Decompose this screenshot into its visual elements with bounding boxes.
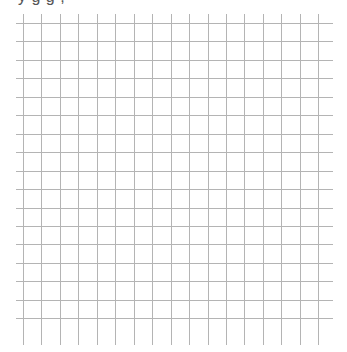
- grid-line-horizontal: [16, 281, 333, 282]
- grid-line-horizontal: [16, 263, 333, 264]
- grid-line-horizontal: [16, 300, 333, 301]
- grid-line-horizontal: [16, 208, 333, 209]
- grid-line-horizontal: [16, 23, 333, 24]
- grid-line-vertical: [41, 14, 42, 345]
- grid-line-horizontal: [16, 152, 333, 153]
- grid-line-horizontal: [16, 318, 333, 319]
- grid-line-vertical: [97, 14, 98, 345]
- grid-line-horizontal: [16, 115, 333, 116]
- grid-line-horizontal: [16, 226, 333, 227]
- grid-line-vertical: [60, 14, 61, 345]
- grid-line-vertical: [78, 14, 79, 345]
- grid-line-vertical: [171, 14, 172, 345]
- grid-line-vertical: [281, 14, 282, 345]
- grid-line-vertical: [152, 14, 153, 345]
- grid-line-horizontal: [16, 134, 333, 135]
- grid-line-horizontal: [16, 244, 333, 245]
- grid-line-vertical: [208, 14, 209, 345]
- grid-line-horizontal: [16, 189, 333, 190]
- grid-line-horizontal: [16, 97, 333, 98]
- grid-line-vertical: [263, 14, 264, 345]
- grid-line-vertical: [115, 14, 116, 345]
- grid-line-vertical: [134, 14, 135, 345]
- grid-line-vertical: [244, 14, 245, 345]
- grid-line-horizontal: [16, 78, 333, 79]
- grid-line-vertical: [23, 14, 24, 345]
- grid-line-horizontal: [16, 171, 333, 172]
- grid-line-horizontal: [16, 41, 333, 42]
- grid-line-vertical: [300, 14, 301, 345]
- grid-line-vertical: [226, 14, 227, 345]
- grid-line-vertical: [318, 14, 319, 345]
- grid-line-vertical: [189, 14, 190, 345]
- grid-line-horizontal: [16, 60, 333, 61]
- grid-paper: [0, 0, 347, 352]
